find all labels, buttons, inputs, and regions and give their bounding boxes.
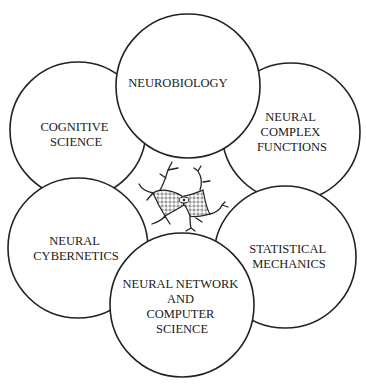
- label-statistical-mechanics: STATISTICAL MECHANICS: [249, 242, 328, 271]
- node-neurobiology: NEUROBIOLOGY: [116, 14, 260, 158]
- dendrite-upper-right: [194, 166, 210, 190]
- label-neural-complex-functions: NEURAL COMPLEX FUNCTIONS: [257, 110, 327, 154]
- dendrite-lower-left: [152, 216, 170, 224]
- interdisciplinary-diagram: COGNITIVE SCIENCE NEURAL COMPLEX FUNCTIO…: [0, 0, 366, 389]
- dendrite-lower: [186, 216, 195, 231]
- label-neurobiology: NEUROBIOLOGY: [128, 76, 227, 90]
- neuron-soma-left: [153, 190, 184, 216]
- dendrite-upper-left: [160, 162, 178, 190]
- dendrite-lower-right: [196, 218, 202, 222]
- node-neural-network-computer-science: NEURAL NETWORK AND COMPUTER SCIENCE: [110, 233, 254, 377]
- neuron-nucleolus: [183, 199, 186, 202]
- label-cognitive-science: COGNITIVE SCIENCE: [40, 120, 111, 149]
- neuron-icon: [139, 162, 228, 231]
- dendrite-left: [139, 184, 153, 200]
- neuron-soma-right: [184, 190, 210, 217]
- dendrite-right: [210, 202, 228, 214]
